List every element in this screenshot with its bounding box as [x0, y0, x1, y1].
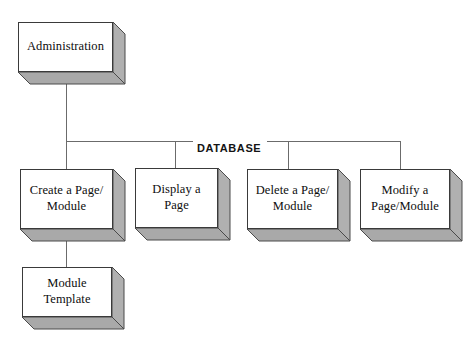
connector-drop-delete [288, 141, 289, 169]
node-administration[interactable]: Administration [18, 22, 113, 72]
modify-page-module-label: Modify a Page/Module [361, 183, 449, 214]
node-module-template[interactable]: Module Template [22, 267, 112, 317]
connector-drop-create [66, 141, 67, 169]
connector-drop-display [175, 141, 176, 168]
connector-drop-modify [400, 141, 401, 169]
modify-page-module-face: Modify a Page/Module [360, 169, 450, 229]
module-template-label: Module Template [23, 276, 111, 307]
diagram-canvas: Administration DATABASE Create a Page/ M… [0, 0, 475, 349]
create-page-module-face: Create a Page/ Module [20, 169, 113, 229]
bus-label-database: DATABASE [193, 142, 265, 154]
delete-page-module-face: Delete a Page/ Module [247, 169, 338, 229]
administration-label: Administration [22, 39, 109, 55]
node-delete-page-module[interactable]: Delete a Page/ Module [247, 169, 338, 229]
administration-face: Administration [18, 22, 113, 72]
node-modify-page-module[interactable]: Modify a Page/Module [360, 169, 450, 229]
connector-bus-left [66, 141, 193, 142]
display-page-face: Display a Page [135, 168, 218, 228]
display-page-label: Display a Page [136, 182, 217, 213]
module-template-face: Module Template [22, 267, 112, 317]
delete-page-module-label: Delete a Page/ Module [248, 183, 337, 214]
node-display-page[interactable]: Display a Page [135, 168, 218, 228]
create-page-module-label: Create a Page/ Module [21, 183, 112, 214]
node-create-page-module[interactable]: Create a Page/ Module [20, 169, 113, 229]
